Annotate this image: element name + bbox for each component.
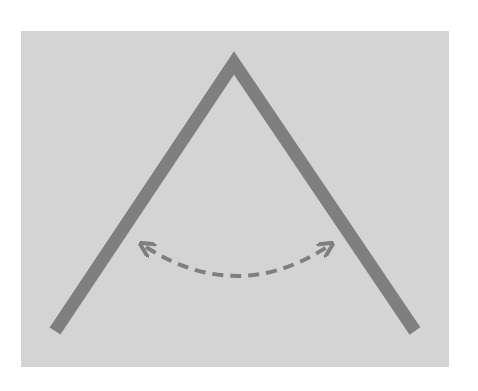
background-panel	[21, 31, 449, 367]
angle-diagram	[0, 0, 478, 391]
